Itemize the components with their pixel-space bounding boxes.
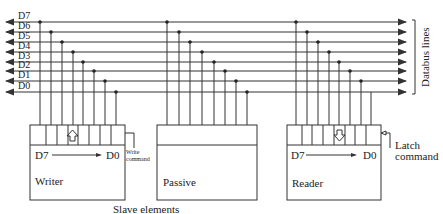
- writer-range-from: D7: [35, 149, 49, 161]
- databus-bracket: [412, 20, 415, 94]
- label-d1: D1: [18, 69, 30, 80]
- writer-command-line2: command: [126, 156, 150, 162]
- caption: Slave elements: [113, 203, 179, 214]
- databus-label: Databus lines: [419, 27, 431, 87]
- writer-label: Writer: [35, 175, 64, 187]
- label-d0: D0: [18, 80, 30, 91]
- reader-range-from: D7: [291, 149, 305, 161]
- writer-element: [30, 125, 134, 200]
- up-arrow-icon: [67, 130, 78, 141]
- writer-taps: [40, 22, 116, 125]
- reader-command-line2: command: [395, 150, 439, 162]
- passive-taps: [167, 22, 247, 125]
- writer-range-to: D0: [106, 149, 120, 161]
- reader-taps: [296, 22, 371, 125]
- passive-element: [157, 125, 257, 200]
- reader-range-to: D0: [363, 149, 377, 161]
- down-arrow-icon: [334, 130, 345, 141]
- passive-label: Passive: [163, 176, 196, 188]
- bus-lines: [6, 22, 406, 92]
- line-labels: D7 D6 D5 D4 D3 D2 D1 D0: [18, 10, 30, 91]
- writer-command-line1: Write: [126, 149, 140, 155]
- reader-label: Reader: [292, 177, 323, 189]
- databus-diagram: D7 D6 D5 D4 D3 D2 D1 D0 Databus lines: [0, 0, 443, 214]
